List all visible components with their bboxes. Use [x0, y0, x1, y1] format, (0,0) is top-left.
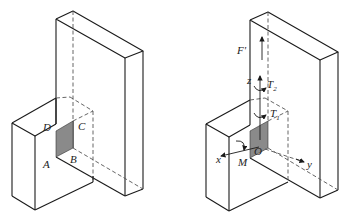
tall-slab-left — [56, 11, 143, 196]
left-figure: D C A B — [12, 11, 143, 210]
label-F: F' — [236, 44, 247, 56]
M-moment-icon — [236, 141, 244, 150]
tall-slab-right — [250, 12, 338, 198]
label-O: O — [254, 145, 262, 157]
y-axis-arrow — [296, 159, 304, 162]
diagram-canvas: D C A B — [0, 0, 346, 218]
right-figure: F' z T2 T1 x M O y — [206, 12, 338, 211]
label-B: B — [70, 153, 77, 165]
label-M: M — [237, 156, 248, 168]
label-C: C — [78, 120, 86, 132]
label-T2: T2 — [267, 78, 277, 93]
label-D: D — [42, 121, 51, 133]
contact-area-abcd — [56, 121, 73, 157]
label-y: y — [306, 158, 312, 170]
small-box-left — [12, 97, 93, 210]
label-z: z — [246, 74, 252, 86]
label-A: A — [42, 158, 50, 170]
y-axis-line — [265, 149, 301, 161]
label-x: x — [215, 153, 221, 165]
